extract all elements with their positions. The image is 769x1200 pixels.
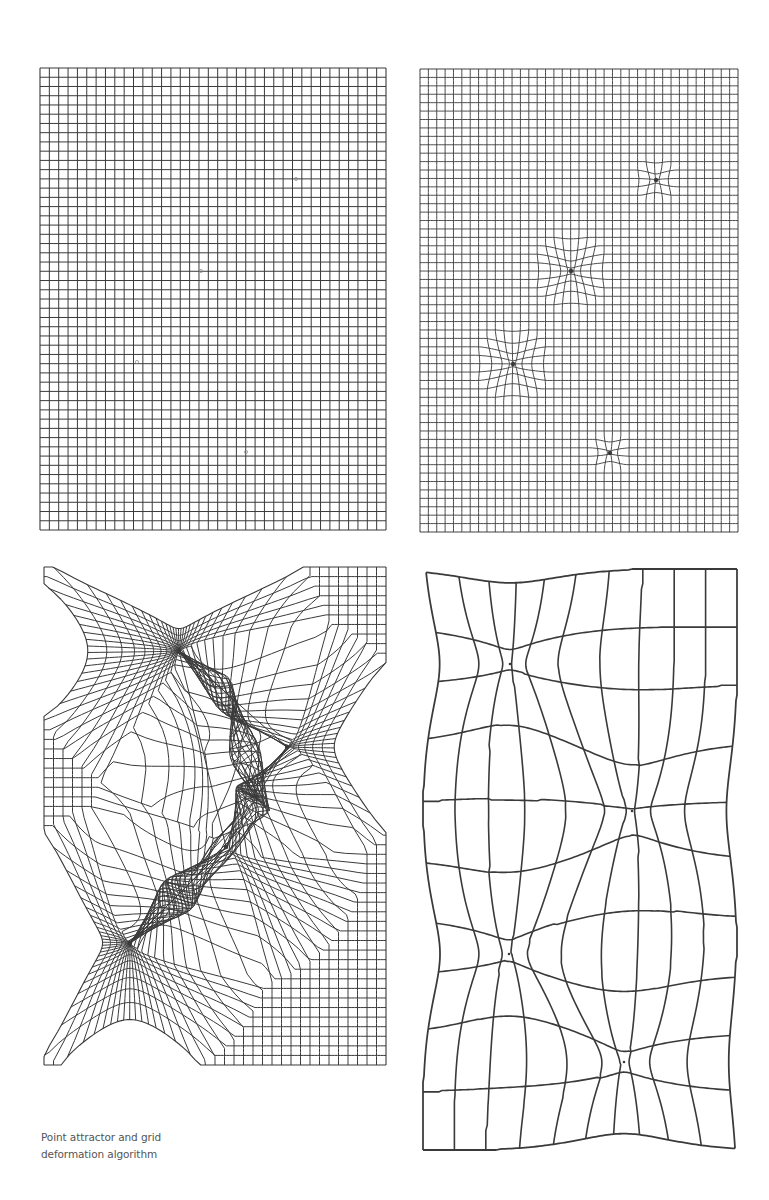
grid-vertical-line	[646, 69, 650, 532]
grid-vertical-line	[487, 69, 492, 532]
grid-vertical-line	[322, 567, 376, 1065]
grid-vertical-line	[726, 569, 737, 1148]
grid-vertical-line	[334, 567, 386, 1065]
grid-vertical-line	[650, 569, 675, 1140]
grid-horizontal-line	[88, 651, 386, 705]
grid-horizontal-line	[423, 799, 727, 809]
grid-horizontal-line	[420, 254, 738, 261]
grid-vertical-line	[511, 583, 527, 1148]
grid-horizontal-line	[420, 274, 738, 279]
grid-vertical-line	[512, 69, 513, 532]
grid-horizontal-line	[438, 670, 737, 690]
grid-drawing	[40, 68, 386, 530]
grid-horizontal-line	[423, 1134, 735, 1150]
grid-horizontal-line	[66, 794, 386, 904]
grid-drawing	[44, 567, 386, 1065]
grid-vertical-line	[532, 69, 539, 532]
grid-horizontal-line	[439, 961, 735, 992]
grid-vertical-line	[668, 69, 671, 532]
grid-vertical-line	[581, 69, 588, 532]
radial-attractor-grid-panel	[420, 69, 738, 532]
grid-vertical-line	[454, 577, 478, 1150]
figure-caption: Point attractor and grid deformation alg…	[41, 1129, 161, 1163]
grid-vertical-line	[167, 622, 269, 1065]
grid-vertical-line	[238, 567, 310, 1065]
grid-horizontal-line	[436, 911, 735, 940]
grid-horizontal-line	[44, 683, 335, 775]
grid-horizontal-line	[79, 615, 386, 651]
grid-vertical-line	[638, 69, 639, 532]
grid-vertical-line	[611, 69, 613, 532]
attractor-point-icon	[177, 649, 181, 653]
grid-vertical-line	[544, 69, 551, 532]
grid-vertical-line	[558, 575, 605, 1139]
grid-vertical-line	[591, 69, 598, 532]
grid-vertical-line	[685, 569, 706, 1145]
grid-horizontal-line	[420, 263, 738, 268]
caption-line-1: Point attractor and grid	[41, 1129, 161, 1146]
grid-vertical-line	[486, 581, 503, 1150]
attractor-point-icon	[128, 941, 132, 945]
attractor-point-icon	[509, 663, 512, 666]
grid-vertical-line	[562, 69, 568, 532]
caption-line-2: deformation algorithm	[41, 1146, 161, 1163]
grid-horizontal-line	[426, 835, 730, 872]
attractor-point-icon	[608, 451, 612, 455]
grid-vertical-line	[504, 69, 510, 532]
grid-vertical-line	[515, 69, 520, 532]
pinched-coarse-grid-panel	[423, 569, 737, 1150]
attractor-point-icon	[654, 178, 658, 182]
grid-horizontal-line	[420, 281, 738, 288]
grid-vertical-line	[554, 69, 561, 532]
attractor-point-icon	[224, 845, 228, 849]
grid-horizontal-line	[423, 1072, 730, 1092]
grid-vertical-line	[479, 69, 480, 532]
attractor-point-icon	[508, 953, 511, 956]
grid-horizontal-line	[420, 246, 738, 251]
strong-attractor-grid-panel	[44, 567, 386, 1065]
attractor-point-icon	[285, 745, 289, 749]
grid-vertical-line	[654, 69, 655, 532]
grid-vertical-line	[618, 69, 621, 532]
grid-vertical-line	[423, 572, 440, 1150]
attractor-marker-icon	[135, 360, 138, 363]
grid-horizontal-line	[426, 569, 737, 583]
grid-vertical-line	[659, 69, 663, 532]
grid-vertical-line	[495, 69, 502, 532]
grid-vertical-line	[142, 628, 259, 1041]
grid-horizontal-line	[77, 653, 349, 734]
grid-horizontal-line	[428, 1016, 730, 1051]
grid-horizontal-line	[66, 596, 386, 645]
grid-vertical-line	[522, 69, 529, 532]
grid-horizontal-line	[54, 790, 386, 898]
attractor-point-icon	[631, 810, 634, 813]
attractor-point-icon	[623, 1061, 626, 1064]
grid-vertical-line	[574, 69, 579, 532]
grid-horizontal-line	[44, 712, 335, 793]
attractor-point-icon	[569, 269, 573, 273]
grid-horizontal-line	[420, 291, 738, 296]
grid-drawing	[423, 569, 737, 1150]
grid-vertical-line	[600, 571, 626, 1134]
grid-drawing	[420, 69, 738, 532]
grid-horizontal-line	[436, 627, 737, 649]
grid-horizontal-line	[428, 725, 732, 765]
attractor-point-icon	[511, 362, 515, 366]
regular-grid-panel	[40, 68, 386, 530]
